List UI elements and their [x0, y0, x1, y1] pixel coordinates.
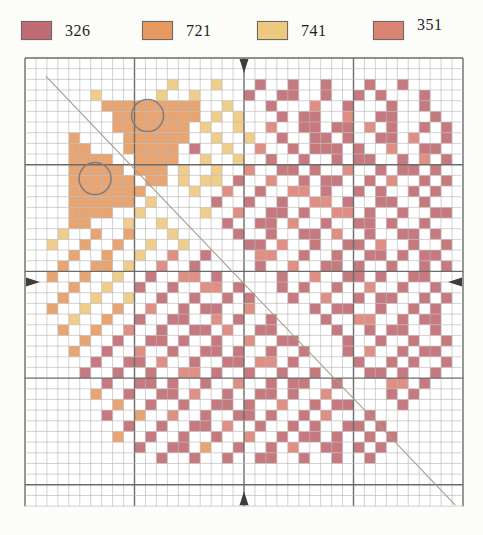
legend-swatch-721	[142, 21, 173, 40]
color-legend: 326 721 741 351	[0, 0, 483, 50]
legend-swatch-326	[21, 21, 52, 40]
legend-label-741: 741	[301, 22, 327, 40]
legend-item-326: 326	[21, 21, 91, 40]
legend-label-721: 721	[186, 22, 212, 40]
legend-swatch-351	[373, 21, 404, 40]
pattern-chart	[0, 0, 483, 535]
legend-item-351: 351	[373, 21, 443, 40]
legend-label-351: 351	[417, 16, 443, 34]
legend-swatch-741	[257, 21, 288, 40]
legend-item-741: 741	[257, 21, 327, 40]
legend-item-721: 721	[142, 21, 212, 40]
legend-label-326: 326	[65, 22, 91, 40]
pattern-page: 326 721 741 351	[0, 0, 483, 535]
grid-lines	[25, 58, 463, 506]
